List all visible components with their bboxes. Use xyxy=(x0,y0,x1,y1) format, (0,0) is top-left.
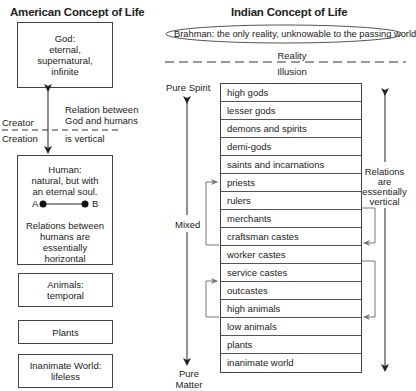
bracket-craftsman-to-priests xyxy=(206,182,219,245)
point-b-dot xyxy=(82,201,89,208)
point-a-dot xyxy=(40,201,47,208)
bracket-worker-to-high-animals xyxy=(362,261,375,317)
bracket-high-animals-to-service xyxy=(206,281,219,317)
bracket-rulers-to-craftsman xyxy=(362,208,375,243)
brahman-ellipse xyxy=(166,25,402,43)
